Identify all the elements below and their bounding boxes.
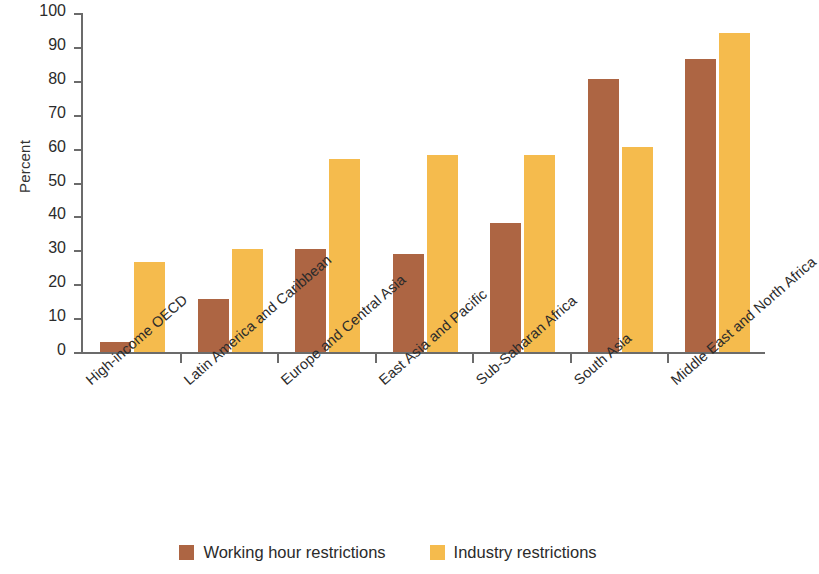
y-axis-tick-label: 70: [48, 104, 66, 122]
y-axis-tick: 40: [0, 216, 82, 217]
legend-item: Industry restrictions: [430, 543, 597, 562]
bar-group: [180, 13, 278, 352]
x-axis-tick-mark: [180, 352, 182, 363]
bar-group: [472, 13, 570, 352]
y-axis-tick: 20: [0, 284, 82, 285]
y-axis-tick-label: 80: [48, 70, 66, 88]
chart-legend: Working hour restrictionsIndustry restri…: [0, 543, 776, 562]
bar-group: [667, 13, 765, 352]
y-axis-tick-label: 60: [48, 138, 66, 156]
bar-group: [277, 13, 375, 352]
y-axis-tick: 70: [0, 115, 82, 116]
legend-label: Industry restrictions: [454, 543, 597, 562]
x-axis-tick-mark: [375, 352, 377, 363]
x-axis-tick-mark: [667, 352, 669, 363]
y-axis-tick-label: 40: [48, 205, 66, 223]
y-axis-tick: 60: [0, 149, 82, 150]
y-axis-tick: 100: [0, 13, 82, 14]
y-axis-tick-label: 20: [48, 273, 66, 291]
bar: [490, 223, 521, 352]
y-axis-tick-label: 30: [48, 239, 66, 257]
legend-swatch: [430, 545, 445, 560]
y-axis-tick-label: 50: [48, 172, 66, 190]
x-axis-tick-mark: [570, 352, 572, 363]
legend-swatch: [179, 545, 194, 560]
y-axis-tick-label: 100: [39, 2, 66, 20]
bar: [622, 147, 653, 352]
legend-item: Working hour restrictions: [179, 543, 385, 562]
y-axis-tick: 50: [0, 183, 82, 184]
y-axis-tick-label: 10: [48, 307, 66, 325]
y-axis-tick-label: 90: [48, 36, 66, 54]
y-axis-title: Percent: [16, 117, 33, 217]
y-axis-tick: 30: [0, 250, 82, 251]
bar-group: [375, 13, 473, 352]
bar: [588, 79, 619, 352]
bar: [685, 59, 716, 352]
y-axis-tick: 10: [0, 318, 82, 319]
y-axis-tick-label: 0: [57, 341, 66, 359]
bar: [719, 33, 750, 352]
legend-label: Working hour restrictions: [203, 543, 385, 562]
y-axis-tick: 90: [0, 47, 82, 48]
y-axis-tick: 0: [0, 352, 82, 353]
x-axis-tick-mark: [277, 352, 279, 363]
x-axis-tick-mark: [472, 352, 474, 363]
bar-group: [82, 13, 180, 352]
y-axis-tick: 80: [0, 81, 82, 82]
bar-group: [570, 13, 668, 352]
